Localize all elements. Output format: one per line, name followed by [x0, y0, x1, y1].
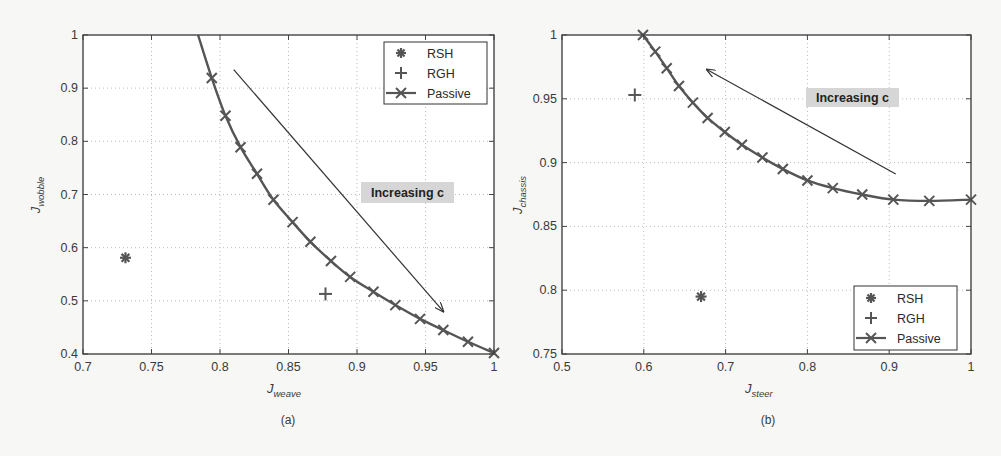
legend-label-rgh: RGH — [427, 67, 455, 81]
x-axis-label: Jsteer — [744, 381, 773, 399]
legend-rsh-icon — [396, 48, 406, 58]
x-tick-label: 0.5 — [553, 360, 570, 374]
y-axis-label: Jchassis — [510, 176, 528, 215]
legend: RSH RGH Passive — [854, 286, 957, 350]
plot-panel-a: Increasing c 0.70.750.80.850.90.9510.40.… — [28, 28, 499, 427]
legend-label-rsh: RSH — [427, 47, 453, 61]
x-tick-label: 1 — [491, 360, 498, 374]
legend-label-passive: Passive — [897, 332, 941, 346]
panel-caption: (b) — [761, 413, 776, 427]
y-tick-label: 0.8 — [540, 283, 557, 297]
y-tick-label: 0.7 — [61, 188, 78, 202]
y-tick-label: 0.5 — [61, 294, 78, 308]
legend-label-rsh: RSH — [897, 292, 923, 306]
y-tick-label: 0.8 — [61, 134, 78, 148]
y-tick-label: 0.6 — [61, 241, 78, 255]
legend-label-passive: Passive — [427, 87, 471, 101]
y-tick-label: 0.95 — [533, 92, 557, 106]
legend: RSH RGH Passive — [384, 42, 487, 104]
y-tick-label: 0.75 — [533, 347, 557, 361]
y-tick-label: 0.9 — [540, 156, 557, 170]
x-tick-label: 1 — [968, 360, 975, 374]
x-tick-label: 0.7 — [717, 360, 734, 374]
y-tick-label: 0.85 — [533, 219, 557, 233]
y-tick-label: 1 — [550, 28, 557, 42]
y-tick-label: 0.4 — [61, 347, 78, 361]
legend-label-rgh: RGH — [897, 312, 925, 326]
x-tick-label: 0.8 — [211, 360, 228, 374]
panel-caption: (a) — [281, 413, 296, 427]
x-tick-label: 0.9 — [881, 360, 898, 374]
y-axis-label: Jwobble — [28, 177, 46, 215]
x-tick-label: 0.85 — [276, 360, 300, 374]
x-tick-label: 0.75 — [139, 360, 163, 374]
x-tick-label: 0.7 — [74, 360, 91, 374]
figure-canvas: Increasing c 0.70.750.80.850.90.9510.40.… — [0, 0, 1001, 456]
x-tick-label: 0.9 — [348, 360, 365, 374]
x-tick-label: 0.8 — [799, 360, 816, 374]
plot-panel-b: Increasing c 0.50.60.70.80.910.750.80.85… — [510, 28, 976, 427]
y-tick-label: 0.9 — [61, 81, 78, 95]
x-tick-label: 0.6 — [635, 360, 652, 374]
increasing-c-annotation: Increasing c — [361, 182, 454, 203]
legend-rsh-icon — [866, 293, 876, 303]
annotation-text: Increasing c — [371, 186, 444, 200]
x-axis-label: Jweave — [266, 381, 301, 399]
y-tick-label: 1 — [71, 28, 78, 42]
x-tick-label: 0.95 — [413, 360, 437, 374]
increasing-c-annotation: Increasing c — [806, 88, 899, 107]
annotation-text: Increasing c — [816, 91, 889, 105]
